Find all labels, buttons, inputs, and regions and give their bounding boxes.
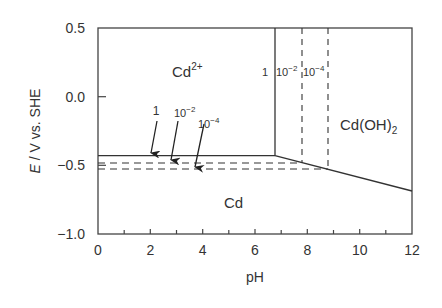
y-tick-label: 0.0 [66,89,86,105]
y-tick-label: 0.5 [66,20,86,36]
region-label-cdoh2: Cd(OH)2 [340,116,398,136]
arrow-label-1e-2: 10−2 [174,105,196,119]
arrow-activity-1 [151,121,157,153]
x-tick-label: 12 [404,242,420,258]
region-label-cd2plus: Cd2+ [172,61,203,80]
y-axis-title: E / V vs. SHE [27,89,43,174]
y-tick-label: −1.0 [57,226,85,242]
x-tick-label: 2 [146,242,154,258]
region-label-cd: Cd [224,194,243,211]
arrow-activity-1e-4 [195,124,204,167]
y-tick-label: −0.5 [57,157,85,173]
arrow-label-1e-4: 10−4 [198,116,220,130]
pourbaix-diagram: 0.5 0.0 −0.5 −1.0 0 2 4 6 8 10 12 pH E /… [0,0,442,308]
x-axis-ticks [124,229,386,234]
vertical-label-1e-2: 10−2 [276,64,298,78]
x-axis-title: pH [246,269,264,285]
x-tick-label: 8 [303,242,311,258]
arrow-label-1: 1 [153,104,160,118]
vertical-label-1: 1 [262,66,268,78]
x-tick-label: 10 [352,242,368,258]
x-tick-label: 0 [94,242,102,258]
arrow-activity-1e-2 [171,121,178,160]
y-axis-ticks [98,97,106,166]
line-cdoh-cd [275,156,412,191]
x-tick-label: 6 [251,242,259,258]
x-tick-label: 4 [199,242,207,258]
vertical-label-1e-4: 10−4 [303,64,325,78]
